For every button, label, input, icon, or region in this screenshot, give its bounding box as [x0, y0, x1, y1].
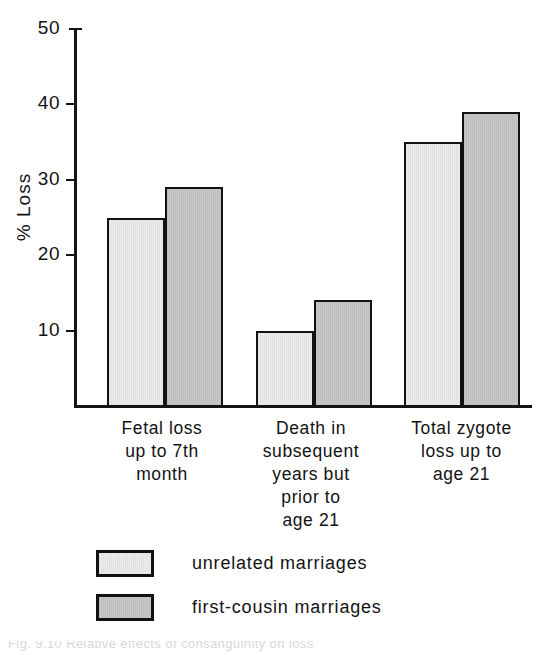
- bar-chart-figure: % Loss 5040302010 Fetal loss up to 7th m…: [0, 0, 542, 655]
- bar: [314, 300, 372, 407]
- bar: [404, 142, 462, 407]
- page-caption: Fig. 9.10 Relative effects of consanguin…: [8, 641, 314, 651]
- bar: [462, 112, 520, 407]
- y-tick-label: 40: [14, 93, 60, 112]
- category-labels: Fetal loss up to 7th monthDeath in subse…: [0, 413, 542, 543]
- legend-entry: first-cousin marriages: [96, 592, 382, 622]
- legend-swatch: [96, 550, 154, 577]
- category-label: Death in subsequent years but prior to a…: [231, 417, 391, 532]
- legend-label: first-cousin marriages: [192, 597, 382, 618]
- category-label: Fetal loss up to 7th month: [82, 417, 242, 486]
- y-tick-label: 50: [14, 18, 60, 37]
- y-tick-label: 10: [14, 320, 60, 339]
- legend-label: unrelated marriages: [192, 553, 367, 574]
- bars-layer: [74, 29, 532, 407]
- bar: [107, 218, 165, 408]
- bar: [256, 331, 314, 407]
- legend-entry: unrelated marriages: [96, 548, 367, 578]
- legend-swatch: [96, 594, 154, 621]
- plot-area: % Loss 5040302010: [0, 0, 542, 420]
- y-tick-label: 20: [14, 244, 60, 263]
- chart-legend: unrelated marriagesfirst-cousin marriage…: [0, 548, 542, 628]
- y-tick-label: 30: [14, 169, 60, 188]
- bar: [165, 187, 223, 407]
- category-label: Total zygote loss up to age 21: [379, 417, 542, 486]
- page-caption-strip: Fig. 9.10 Relative effects of consanguin…: [0, 641, 542, 655]
